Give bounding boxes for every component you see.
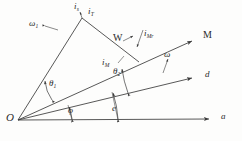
- i-m-sub: M: [105, 62, 110, 68]
- axis-m-label: M: [203, 30, 212, 40]
- e-label: e: [112, 104, 116, 113]
- omega-leader: [163, 59, 168, 73]
- i-s-sub: s: [77, 6, 79, 12]
- i-m-tick: [118, 56, 124, 63]
- i-m-label: iM: [102, 58, 109, 68]
- theta2-base: θ: [113, 66, 117, 76]
- axis-a-label: a: [221, 112, 226, 121]
- i-s-label: is: [74, 2, 79, 12]
- phi-label: φ: [68, 106, 73, 115]
- i-mr-leader: [137, 30, 143, 47]
- axis-d-line: [18, 78, 192, 120]
- origin-label: O: [6, 112, 14, 123]
- axis-d-label: d: [205, 70, 210, 79]
- i-t-sub: T: [91, 11, 94, 17]
- omega1-label: ω1: [29, 19, 38, 29]
- w-label: W: [113, 33, 122, 43]
- i-mr-sub: Mr: [147, 33, 154, 39]
- theta1-base: θ: [49, 78, 53, 88]
- vector-diagram: O a d M is iT iM iMr W θ1 θ2 φ e ω ω1: [0, 0, 242, 141]
- i-mr-label: iMr: [144, 29, 153, 39]
- i-s-tick: [80, 12, 82, 18]
- theta2-label: θ2: [113, 67, 120, 77]
- theta1-sub: 1: [54, 83, 57, 89]
- theta2-arc: [122, 69, 128, 93]
- omega1-sub: 1: [35, 23, 38, 29]
- theta2-sub: 2: [118, 71, 121, 77]
- axis-a-line: [18, 119, 209, 120]
- w-leader: [123, 36, 133, 41]
- triangle-right-leg: [82, 18, 139, 62]
- theta1-label: θ1: [49, 79, 56, 89]
- i-t-label: iT: [88, 7, 94, 17]
- omega1-leader: [45, 26, 58, 30]
- omega-label: ω: [164, 50, 170, 59]
